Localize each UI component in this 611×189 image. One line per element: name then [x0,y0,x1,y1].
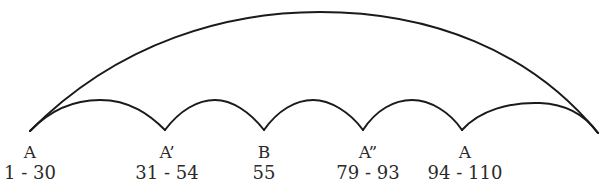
section-label-a-double-prime: A” 79 - 93 [336,142,399,184]
section-letter: A [4,142,56,162]
overall-arc [30,12,598,133]
form-arc-diagram [0,0,611,189]
section-label-a: A 1 - 30 [4,142,56,184]
section-arc-a-prime [165,100,264,130]
section-letter: A” [336,142,399,162]
measure-range: 31 - 54 [135,162,198,184]
section-arc-a-double-prime [363,100,462,130]
section-arc-a-return [462,103,598,133]
measure-range: 79 - 93 [336,162,399,184]
section-label-b: B 55 [253,142,276,184]
section-letter: A [428,142,503,162]
section-label-a-return: A 94 - 110 [428,142,503,184]
measure-range: 94 - 110 [428,162,503,184]
measure-range: 55 [253,162,276,184]
section-letter: A’ [135,142,198,162]
section-arc-a [30,100,165,131]
measure-range: 1 - 30 [4,162,56,184]
section-letter: B [253,142,276,162]
section-label-a-prime: A’ 31 - 54 [135,142,198,184]
section-arc-b [264,100,363,130]
